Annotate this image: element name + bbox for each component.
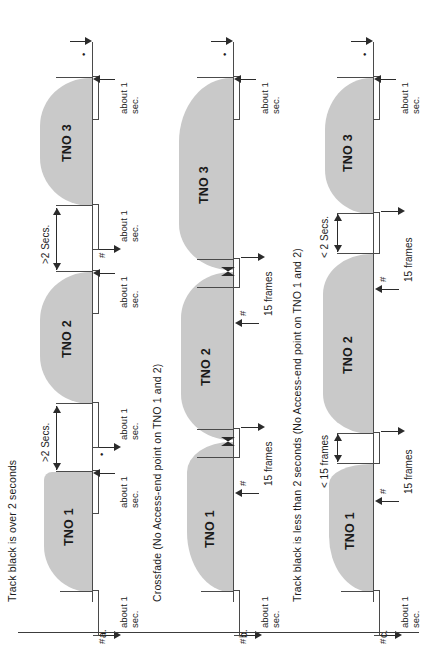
panel-b-about-1-line2: sec.: [270, 611, 281, 628]
panel-a-caption: Track black is over 2 seconds: [6, 460, 18, 602]
panel-b-editline-1: [201, 591, 233, 592]
panel-b-mark-4: •: [219, 53, 230, 56]
panel-c-frames-label-1: 15 frames: [403, 450, 414, 494]
figure-stage: Track black is over 2 seconds a. TNO 1 T…: [0, 0, 433, 654]
panel-a-gap-dim-1: [56, 406, 57, 470]
panel-a-about-4-line1: about 1: [118, 276, 129, 308]
panel-a-about-2: about 1 sec.: [118, 476, 140, 508]
panel-a-gap-label-1: >2 Secs.: [40, 423, 51, 462]
panel-c-track-label-tno1: TNO 1: [343, 512, 357, 550]
panel-a-about-2-line2: sec.: [129, 491, 140, 508]
panel-b-bracket-about-1: [234, 590, 240, 636]
panel-c-arrow-15f-1a: [381, 501, 399, 502]
panel-b-about-2-line2: sec.: [270, 97, 281, 114]
panel-b-arrow-about-1: [240, 635, 256, 636]
panel-a-track-label-tno1: TNO 1: [62, 508, 76, 546]
panel-a-bracket-5: [93, 204, 99, 250]
panel-c-about-1-line1: about 1: [399, 596, 410, 628]
panel-c-gap-label-1: < 15 frames: [319, 435, 330, 488]
panel-a-editline-4: [56, 271, 92, 272]
panel-a-about-6-line1: about 1: [118, 82, 129, 114]
panel-c-bracket-about-1: [374, 590, 380, 636]
panel-a-gap-label-2: >2 Secs.: [40, 225, 51, 264]
panel-c-arrow-15f-1b: [381, 431, 399, 432]
panel-c-gap-dim-2: [337, 214, 338, 252]
panel-a-about-2-line1: about 1: [118, 476, 129, 508]
panel-c-editline-2: [337, 463, 373, 464]
panel-c-arrow-about-2: [380, 79, 396, 80]
panel-a-arrow-2: [99, 473, 115, 474]
panel-c-editline-3: [337, 433, 373, 434]
panel-a-arrow-3: [99, 447, 115, 448]
panel-c-caption: Track black is less than 2 seconds (No A…: [291, 248, 303, 602]
panel-c-timeline: [373, 42, 374, 602]
panel-b-arrow-15f-1a: [241, 493, 259, 494]
panel-b-editline-5: [197, 259, 233, 260]
panel-c-about-1-line2: sec.: [410, 611, 421, 628]
panel-b-about-2: about 1 sec.: [259, 82, 281, 114]
panel-b-editline-3: [197, 429, 233, 430]
panel-a-editline-3: [56, 403, 92, 404]
panel-c-arrow-15f-2b: [381, 211, 399, 212]
panel-a-about-5-line1: about 1: [118, 210, 129, 242]
panel-b-track-label-tno1: TNO 1: [203, 510, 217, 548]
panel-a-bracket-1: [93, 590, 99, 636]
panel-b-bracket-15f-2: [234, 258, 240, 288]
panel-a-about-5-line2: sec.: [129, 225, 140, 242]
panel-c-track-label-tno2: TNO 2: [341, 336, 355, 374]
panel-a-arrow-6: [99, 79, 115, 80]
panel-b-mark-3: #: [237, 639, 248, 644]
panel-a-editline-2: [56, 471, 92, 472]
panel-a-arrow-7: [70, 41, 86, 42]
panel-a-mark-2: •: [96, 453, 107, 456]
panel-c-editline-6: [337, 77, 373, 78]
panel-c-mark-1: #: [377, 489, 388, 494]
panel-b: Crossfade (No Access-end point on TNO 1 …: [145, 0, 285, 654]
panel-a-mark-1: #: [96, 639, 107, 644]
panel-b-track-label-tno2: TNO 2: [199, 348, 213, 386]
panel-b-mark-1: #: [237, 481, 248, 486]
panel-c-about-2-line1: about 1: [399, 82, 410, 114]
panel-a-mark-4: •: [78, 53, 89, 56]
panel-b-mark-2: #: [237, 311, 248, 316]
panel-a-arrow-5: [99, 249, 115, 250]
panel-b-about-1-line1: about 1: [259, 596, 270, 628]
panel-a-about-6-line2: sec.: [129, 97, 140, 114]
panel-c-mark-3: #: [377, 639, 388, 644]
panel-b-arrow-15f-2a: [241, 323, 259, 324]
panel-a-track-label-tno2: TNO 2: [60, 320, 74, 358]
page-bottom-rule: [18, 632, 419, 633]
panel-c-track-label-tno3: TNO 3: [341, 134, 355, 172]
panel-c-frames-label-2: 15 frames: [403, 238, 414, 282]
panel-a-timeline: [92, 42, 93, 602]
panel-a-about-3-line2: sec.: [129, 423, 140, 440]
panel-b-caption: Crossfade (No Access-end point on TNO 1 …: [151, 364, 163, 602]
panel-a-about-6: about 1 sec.: [118, 82, 140, 114]
panel-c-mark-4: •: [359, 53, 370, 56]
panel-c-editline-4: [337, 253, 373, 254]
panel-b-arrow-end: [211, 41, 227, 42]
panel-c-editline-1: [341, 591, 373, 592]
panel-c-arrow-end: [351, 41, 367, 42]
panel-c: Track black is less than 2 seconds (No A…: [285, 0, 433, 654]
panel-b-editline-6: [197, 77, 233, 78]
panel-b-bracket-15f-1: [234, 428, 240, 458]
panel-a-about-4: about 1 sec.: [118, 276, 140, 308]
panel-a-arrow-4: [99, 273, 115, 274]
panel-c-mark-2: #: [377, 277, 388, 282]
panel-a-bracket-3: [93, 402, 99, 448]
panel-c-about-1: about 1 sec.: [399, 596, 421, 628]
panel-a-about-3-line1: about 1: [118, 408, 129, 440]
panel-c-gap-dim-1: [337, 434, 338, 462]
panel-b-frames-label-2: 15 frames: [263, 272, 274, 316]
panel-a-track-label-tno3: TNO 3: [60, 124, 74, 162]
panel-b-arrow-15f-2b: [241, 257, 259, 258]
panel-a-about-1-line1: about 1: [118, 596, 129, 628]
panel-b-arrow-about-2: [240, 79, 256, 80]
panel-a-about-5: about 1 sec.: [118, 210, 140, 242]
panel-c-about-2-line2: sec.: [410, 97, 421, 114]
panel-b-editline-2: [197, 457, 233, 458]
panel-b-arrow-15f-1b: [241, 427, 259, 428]
panel-a: Track black is over 2 seconds a. TNO 1 T…: [0, 0, 145, 654]
panel-a-about-4-line2: sec.: [129, 291, 140, 308]
